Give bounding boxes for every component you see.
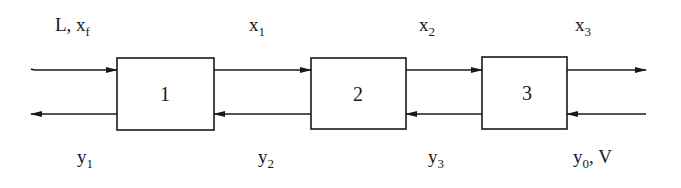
stage-box-2: 2 bbox=[311, 58, 406, 129]
stage-3-label: 3 bbox=[522, 82, 532, 104]
label-y1: y1 bbox=[77, 146, 93, 171]
label-x2: x2 bbox=[419, 14, 435, 39]
feed-arrow-right-icon bbox=[31, 69, 117, 70]
label-feed: L, xf bbox=[55, 14, 91, 39]
label-x1: x1 bbox=[249, 14, 265, 39]
label-y3: y3 bbox=[428, 146, 444, 171]
stage-box-1: 1 bbox=[117, 58, 214, 130]
label-x3: x3 bbox=[575, 14, 591, 39]
stage-2-label: 2 bbox=[353, 83, 363, 105]
label-y2: y2 bbox=[258, 146, 274, 171]
stage-box-3: 3 bbox=[482, 57, 567, 129]
cascade-diagram: 1 2 3 L, xf x1 x2 x3 y1 y2 y3 bbox=[0, 0, 681, 188]
label-y0-v: y0, V bbox=[573, 146, 612, 171]
stage-1-label: 1 bbox=[160, 83, 170, 105]
